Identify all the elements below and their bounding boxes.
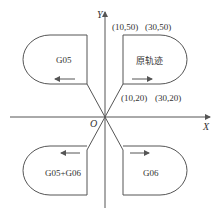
shape-label-g06: G06 (143, 168, 159, 178)
shape-label-g05-g06: G05+G06 (45, 168, 82, 178)
mirror-trajectory-diagram: Y X O (10,50) (30,50) (10,20) (30,20) 原轨… (0, 0, 220, 216)
point-label-30-50: (30,50) (145, 22, 171, 32)
shape-label-g05: G05 (56, 55, 72, 65)
diagram-canvas: Y X O (10,50) (30,50) (10,20) (30,20) 原轨… (0, 0, 220, 216)
point-label-10-20: (10,20) (121, 93, 147, 103)
lead-line-bottom-right (105, 117, 123, 150)
shape-g05 (23, 35, 87, 84)
point-label-30-20: (30,20) (155, 93, 181, 103)
x-axis-label: X (202, 121, 210, 132)
y-axis-label: Y (97, 9, 104, 20)
point-label-10-50: (10,50) (112, 22, 138, 32)
lead-line-top-left (87, 84, 105, 117)
origin-label: O (90, 118, 97, 129)
shape-label-original: 原轨迹 (136, 55, 163, 66)
